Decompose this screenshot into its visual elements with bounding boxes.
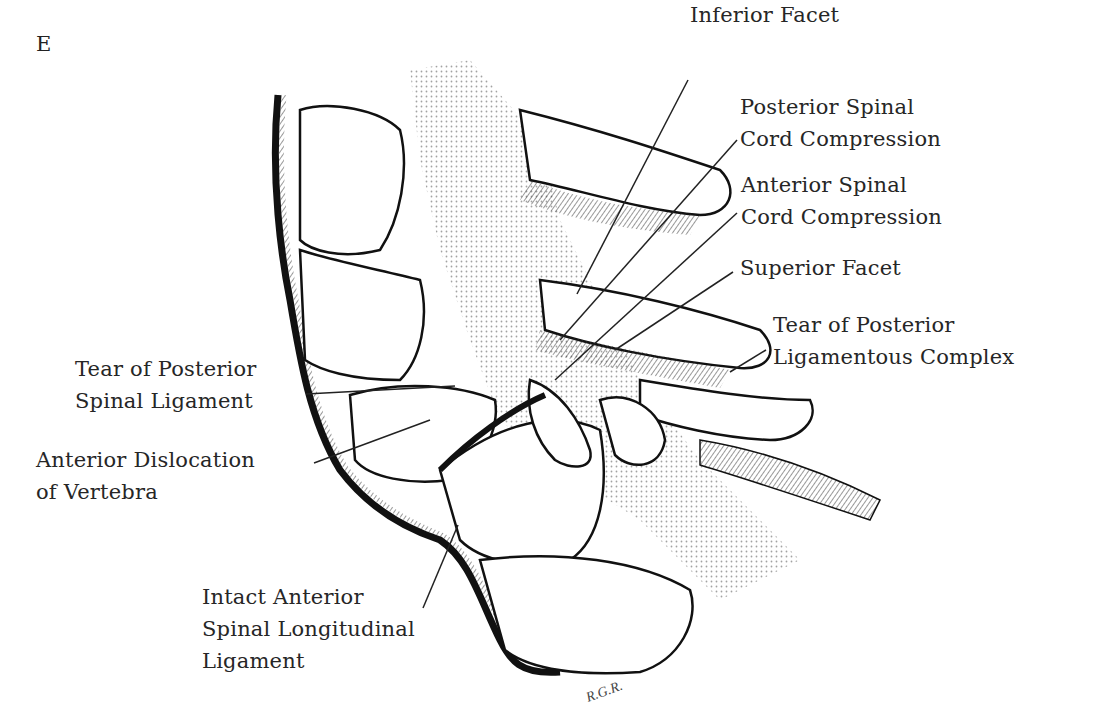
label-superior-facet: Superior Facet xyxy=(740,255,901,281)
vertebra-bottom xyxy=(480,556,693,673)
label-tear-posterior-spinal-ligament: Tear of Posterior Spinal Ligament xyxy=(75,356,257,414)
artist-signature: R.G.R. xyxy=(583,678,625,705)
label-tear-posterior-ligamentous-complex: Tear of Posterior Ligamentous Complex xyxy=(773,312,1014,370)
label-anterior-dislocation: Anterior Dislocation of Vertebra xyxy=(36,447,255,505)
vertebra-c2 xyxy=(300,250,424,380)
label-posterior-cord-compression: Posterior Spinal Cord Compression xyxy=(740,94,941,152)
vertebra-c1 xyxy=(300,106,404,254)
label-intact-anterior-ligament: Intact Anterior Spinal Longitudinal Liga… xyxy=(202,584,415,674)
label-anterior-cord-compression: Anterior Spinal Cord Compression xyxy=(741,172,942,230)
label-inferior-facet: Inferior Facet xyxy=(690,2,839,28)
